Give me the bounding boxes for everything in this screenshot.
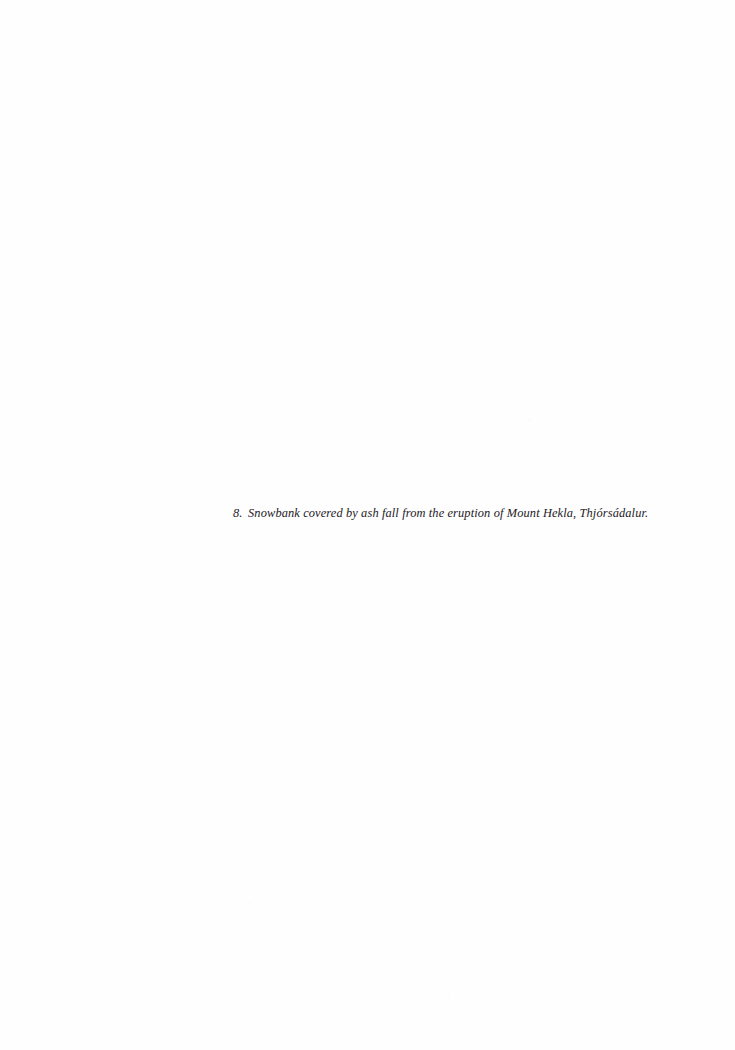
figure-caption: 8.Snowbank covered by ash fall from the … <box>233 505 653 521</box>
figure-caption-text: Snowbank covered by ash fall from the er… <box>248 506 648 520</box>
paper-texture <box>0 0 735 1050</box>
figure-caption-number: 8. <box>233 506 243 520</box>
scanned-page: 8.Snowbank covered by ash fall from the … <box>0 0 735 1050</box>
